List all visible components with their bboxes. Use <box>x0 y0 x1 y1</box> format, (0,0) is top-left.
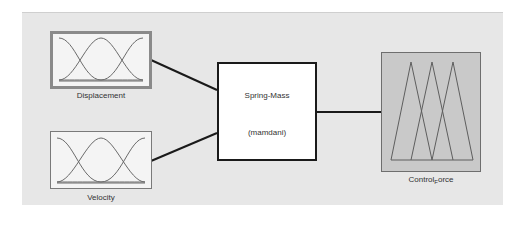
system-type: (mamdani) <box>219 128 315 137</box>
output-block-control-force[interactable] <box>381 52 481 172</box>
triangular-mf-icon <box>382 53 480 171</box>
input-label-velocity: Velocity <box>87 193 115 202</box>
wire-velocity-to-system <box>151 133 217 161</box>
input-block-velocity[interactable] <box>50 131 152 189</box>
wire-displacement-to-system <box>151 60 217 90</box>
gaussian-mf-icon <box>53 34 149 86</box>
input-label-displacement: Displacement <box>77 91 125 100</box>
gaussian-mf-icon <box>51 132 151 188</box>
system-block-spring-mass[interactable]: Spring-Mass (mamdani) <box>217 62 317 161</box>
output-label-control-force: ControlForce <box>408 175 453 185</box>
system-name: Spring-Mass <box>219 91 315 100</box>
input-block-displacement[interactable] <box>50 31 152 89</box>
